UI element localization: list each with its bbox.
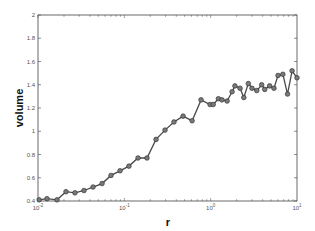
data-point (45, 196, 50, 201)
data-point (100, 181, 105, 186)
data-point (37, 198, 42, 203)
x-axis-label: r (166, 216, 171, 228)
x-axis-ticks: 10-210-1100101 (33, 15, 302, 211)
data-point (163, 128, 168, 133)
data-point (267, 84, 272, 89)
y-axis-ticks: 0.40.60.811.21.41.61.82 (27, 12, 297, 204)
x-tick-label: 100 (206, 203, 216, 211)
data-point (190, 118, 195, 123)
data-point (136, 156, 141, 161)
y-tick-label: 1.6 (27, 59, 36, 65)
line-chart: 0.40.60.811.21.41.61.82 10-210-1100101 r… (0, 0, 315, 231)
y-tick-label: 0.8 (27, 152, 36, 158)
data-point (259, 82, 264, 87)
data-point (73, 191, 78, 196)
data-point (276, 73, 281, 78)
data-point (242, 95, 247, 100)
data-point (199, 98, 204, 103)
data-point (82, 188, 87, 193)
y-tick-label: 1.4 (27, 82, 36, 88)
y-tick-label: 1.8 (27, 35, 36, 41)
data-point (172, 120, 177, 125)
data-point (290, 69, 295, 74)
data-point (230, 89, 235, 94)
data-point (281, 72, 286, 77)
x-tick-label: 10-1 (119, 203, 130, 211)
plot-area-frame (38, 15, 297, 201)
data-point (262, 87, 267, 92)
y-tick-label: 2 (32, 12, 36, 18)
x-tick-label: 10-2 (33, 203, 44, 211)
data-point (64, 189, 69, 194)
data-point (181, 114, 186, 119)
y-tick-label: 0.6 (27, 175, 36, 181)
data-point (91, 185, 96, 190)
data-point (246, 81, 251, 86)
data-point (154, 137, 159, 142)
data-point (295, 75, 300, 80)
data-point (127, 164, 132, 169)
data-markers (37, 69, 299, 203)
data-point (233, 84, 238, 89)
data-point (55, 198, 60, 203)
y-tick-label: 1 (32, 128, 36, 134)
data-point (250, 86, 255, 91)
data-point (254, 88, 259, 93)
data-point (220, 98, 225, 103)
data-point (285, 92, 290, 97)
y-tick-label: 1.2 (27, 105, 36, 111)
data-point (118, 168, 123, 173)
data-point (109, 173, 114, 178)
x-tick-label: 101 (292, 203, 302, 211)
data-point (225, 99, 230, 104)
data-point (145, 156, 150, 161)
y-axis-label: volume (13, 89, 25, 128)
data-point (272, 86, 277, 91)
data-point (238, 86, 243, 91)
data-point (211, 102, 216, 107)
y-tick-label: 0.4 (27, 198, 36, 204)
